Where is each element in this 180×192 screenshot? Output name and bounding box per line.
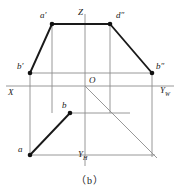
projection-figure: Z X O YW YH a′ d″ b′ b″ b a （b）	[0, 0, 180, 192]
object-outline	[30, 24, 152, 155]
yh-subscript: H	[83, 155, 87, 161]
diagonal-45-line	[85, 86, 157, 158]
point-label-a-prime: a′	[40, 11, 46, 20]
drawing-canvas	[0, 0, 180, 192]
mitre-diagonal	[85, 86, 157, 158]
construction-lines	[6, 14, 174, 166]
dot-b-prime	[28, 71, 33, 76]
dot-a-prime	[50, 22, 55, 27]
axis-label-origin: O	[89, 76, 96, 85]
point-label-b-plan: b	[62, 101, 67, 110]
edge-aprime-bprime	[30, 24, 52, 73]
point-label-b-double: b″	[156, 62, 164, 71]
dot-b-double	[150, 71, 155, 76]
point-label-d-double: d″	[116, 11, 124, 20]
dot-d-double	[108, 22, 113, 27]
axis-label-yh: YH	[78, 150, 87, 161]
axis-label-z: Z	[78, 8, 83, 17]
point-label-b-prime: b′	[17, 62, 23, 71]
point-label-a-plan: a	[18, 145, 23, 154]
dot-b-plan	[68, 111, 73, 116]
edge-ddouble-bdouble	[110, 24, 152, 73]
figure-caption: （b）	[0, 172, 180, 187]
dot-a-plan	[28, 153, 33, 158]
axis-label-x: X	[8, 88, 14, 97]
yw-subscript: W	[165, 91, 170, 97]
edge-a-b-plan	[30, 113, 70, 155]
axis-label-yw: YW	[160, 86, 170, 97]
